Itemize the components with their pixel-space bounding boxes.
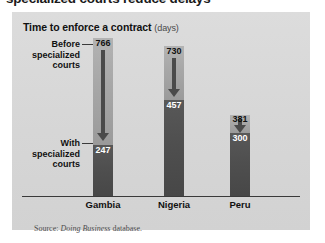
source-publication: Doing Business [60, 224, 110, 233]
annotation-with-specialized-courts: With specialized courts [18, 138, 80, 170]
value-label-peru-before: 381 [230, 114, 249, 125]
source-prefix: Source: [34, 224, 58, 233]
bar-gambia-before [93, 38, 113, 145]
annotation-with-line3: courts [18, 159, 80, 170]
bar-group-gambia: 766 247 [93, 38, 113, 196]
source-suffix: database. [112, 224, 142, 233]
leader-line-before [82, 44, 93, 45]
value-label-nigeria-before: 730 [164, 46, 183, 57]
annotation-before-line1: Before [18, 39, 80, 50]
bar-group-peru: 381 300 [230, 38, 250, 196]
chart-panel: Time to enforce a contract (days) 766 24… [12, 12, 310, 230]
chart-title: Time to enforce a contract (days) [23, 21, 179, 33]
source-note: Source: Doing Business database. [34, 224, 142, 233]
annotation-before-line2: specialized [18, 50, 80, 61]
bar-nigeria-after [164, 100, 184, 196]
value-label-gambia-before: 766 [93, 38, 112, 49]
page-headline: specialized courts reduce delays [6, 0, 306, 6]
annotation-with-line2: specialized [18, 149, 80, 160]
category-label-gambia: Gambia [86, 199, 121, 210]
chart-units-label: (days) [154, 23, 178, 33]
value-label-nigeria-after: 457 [164, 100, 183, 111]
value-label-gambia-after: 247 [93, 145, 112, 156]
x-axis-line [22, 196, 300, 197]
annotation-with-line1: With [18, 138, 80, 149]
chart-title-text: Time to enforce a contract [23, 21, 152, 33]
annotation-before-line3: courts [18, 60, 80, 71]
annotation-before-specialized-courts: Before specialized courts [18, 39, 80, 71]
value-label-peru-after: 300 [230, 133, 249, 144]
category-label-nigeria: Nigeria [158, 199, 190, 210]
leader-line-with [82, 143, 93, 144]
category-label-peru: Peru [229, 199, 250, 210]
bar-group-nigeria: 730 457 [164, 38, 184, 196]
